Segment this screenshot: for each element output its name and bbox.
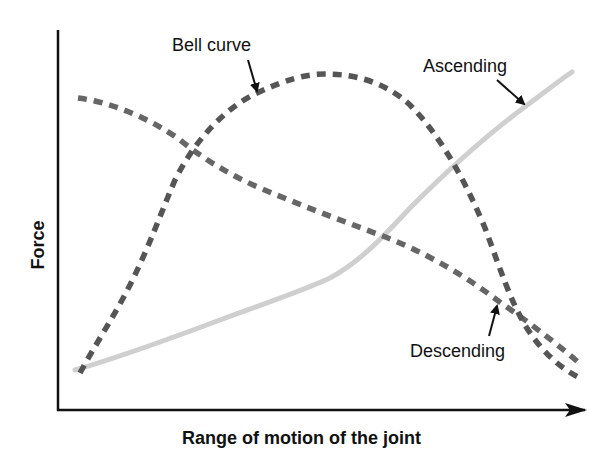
- descending-pointer-arrow: [489, 306, 497, 336]
- bell-curve: [80, 74, 578, 377]
- chart-canvas: [0, 0, 610, 474]
- ascending-pointer-arrow: [497, 80, 524, 104]
- ascending-curve: [75, 72, 572, 370]
- bell-curve-label: Bell curve: [172, 35, 251, 56]
- y-axis-title: Force: [28, 220, 49, 269]
- x-axis-title: Range of motion of the joint: [182, 428, 421, 449]
- bell-curve-pointer-arrow: [248, 60, 257, 91]
- descending-label: Descending: [410, 341, 505, 362]
- ascending-label: Ascending: [423, 56, 507, 77]
- force-curves-diagram: Bell curve Ascending Descending Range of…: [0, 0, 610, 474]
